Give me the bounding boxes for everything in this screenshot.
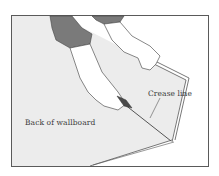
- wallboard-illustration: [0, 0, 219, 176]
- crease-line-label: Crease line: [148, 89, 192, 98]
- back-of-wallboard-label: Back of wallboard: [25, 118, 95, 127]
